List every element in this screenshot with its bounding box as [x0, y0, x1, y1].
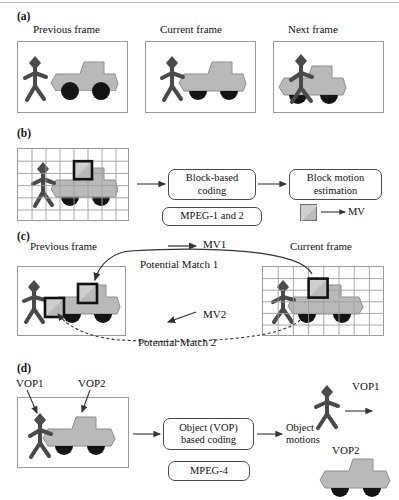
- panel-c-frame1-caption: Previous frame: [30, 240, 97, 252]
- person-shape: [25, 67, 46, 100]
- panel-d: (d) VOP1 VOP2: [0, 356, 399, 500]
- panel-b-block-motion-estimation-box[interactable]: Block motion estimation: [289, 169, 382, 200]
- mv2-arrow: [168, 312, 196, 322]
- panel-c-label: (c): [17, 230, 30, 242]
- panel-b-block-based-coding-box[interactable]: Block-based coding: [168, 169, 256, 200]
- person-head: [29, 56, 41, 70]
- panel-d-label: (d): [17, 362, 31, 374]
- panel-b-box1-line1: Block-based: [186, 172, 239, 184]
- panel-b-mpeg-1-and-2-box[interactable]: MPEG-1 and 2: [162, 207, 262, 226]
- panel-a-frame1-scene: [18, 42, 128, 113]
- vop1-person-shape: [305, 378, 355, 433]
- panel-b-box2-line1: Block motion: [307, 172, 364, 184]
- panel-c-match1-label: Potential Match 1: [140, 258, 218, 270]
- panel-c-frame2-caption: Current frame: [290, 240, 352, 252]
- panel-d-vop1-frame-label: VOP1: [16, 377, 44, 389]
- person-head: [34, 413, 46, 427]
- panel-d-box2-line1: MPEG-4: [190, 465, 228, 477]
- panel-c-frame1-scene: [18, 267, 126, 336]
- panel-a-label: (a): [17, 10, 30, 22]
- panel-d-vop2-object: [300, 452, 396, 498]
- panel-c-match2-label: Potential Match 2: [138, 336, 216, 348]
- panel-d-frame-scene: [18, 398, 129, 468]
- panel-d-vop1-object: [305, 378, 355, 433]
- truck-shape: [179, 62, 246, 100]
- panel-d-mpeg-4-box[interactable]: MPEG-4: [168, 461, 250, 481]
- person-head: [37, 162, 49, 176]
- panel-d-out-line2: motions: [286, 434, 320, 446]
- figure-video-coding: (a) Previous frame Current frame Next fr…: [0, 0, 399, 500]
- truck-shape: [279, 66, 346, 104]
- panel-d-box1-line1: Object (VOP): [179, 422, 238, 434]
- panel-b-gridded-frame: [17, 148, 129, 221]
- panel-a-frame1-caption: Previous frame: [33, 23, 100, 35]
- person-head: [28, 280, 40, 294]
- panel-a-frame3-scene: [274, 42, 384, 113]
- person-head: [166, 56, 178, 70]
- panel-a: (a) Previous frame Current frame Next fr…: [0, 0, 399, 125]
- mv-swatch-diagonal: [301, 205, 318, 222]
- panel-d-vop1-object-label: VOP1: [352, 380, 380, 392]
- panel-b: (b): [0, 125, 399, 228]
- panel-a-frame2-scene: [146, 42, 256, 113]
- panel-b-box2-line2: estimation: [307, 185, 364, 197]
- highlighted-macroblock: [309, 279, 328, 298]
- panel-b-label: (b): [17, 127, 31, 139]
- match-block-2: [45, 298, 64, 317]
- panel-b-box1-line2: coding: [186, 185, 239, 197]
- panel-c-mv2-label: MV2: [203, 308, 226, 320]
- match-block-1: [78, 284, 97, 303]
- vop2-truck-shape: [300, 452, 396, 498]
- panel-a-frame3-caption: Next frame: [288, 23, 338, 35]
- panel-a-next-frame: [273, 41, 384, 113]
- panel-b-mv-label: MV: [348, 206, 365, 218]
- truck-shape: [43, 417, 115, 455]
- panel-a-previous-frame: [17, 41, 128, 113]
- person-head: [277, 280, 289, 294]
- panel-c-current-frame: [262, 266, 384, 336]
- person-shape: [24, 291, 45, 322]
- panel-c-previous-frame: [17, 266, 126, 336]
- panel-a-frame2-caption: Current frame: [160, 23, 222, 35]
- person-head: [295, 54, 307, 68]
- panel-d-vop2-frame-label: VOP2: [78, 377, 106, 389]
- panel-c-mv1-label: MV1: [203, 238, 226, 250]
- panel-b-box3-line1: MPEG-1 and 2: [180, 210, 244, 222]
- truck-shape: [51, 62, 121, 100]
- highlighted-macroblock: [74, 161, 92, 179]
- panel-b-mv-swatch: [300, 204, 317, 221]
- panel-d-box1-line2: based coding: [179, 434, 238, 446]
- panel-b-frame-scene: [18, 149, 129, 221]
- panel-a-current-frame: [145, 41, 256, 113]
- panel-d-vop2-object-label: VOP2: [332, 444, 360, 456]
- person-head: [321, 385, 333, 399]
- panel-d-scene-frame: [17, 397, 129, 468]
- panel-d-object-vop-based-coding-box[interactable]: Object (VOP) based coding: [163, 418, 254, 450]
- panel-c-frame2-scene: [263, 267, 384, 336]
- panel-c: (c) Previous frame Current frame: [0, 228, 399, 356]
